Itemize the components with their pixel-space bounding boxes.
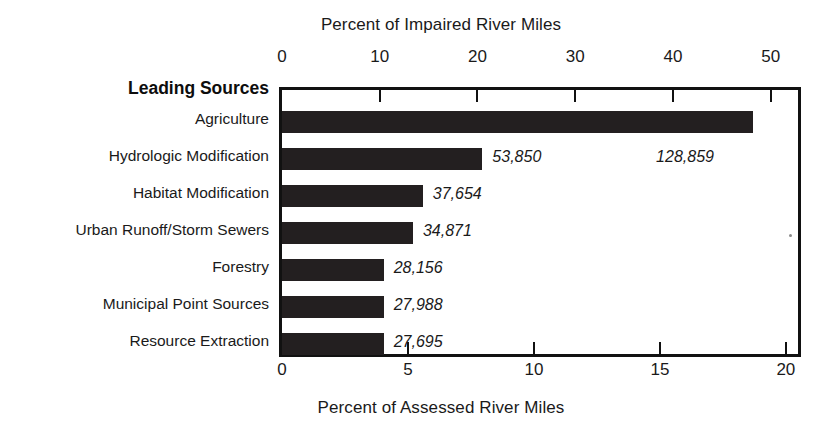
bottom-axis-tick-10 bbox=[533, 342, 535, 354]
category-label-resource-extraction: Resource Extraction bbox=[0, 332, 279, 350]
top-tick-label-20: 20 bbox=[468, 47, 487, 67]
value-label-agriculture: 128,859 bbox=[656, 148, 714, 166]
bar-chart-figure: Percent of Impaired River Miles 01020304… bbox=[0, 0, 836, 438]
plot-area bbox=[279, 87, 801, 357]
top-tick-label-50: 50 bbox=[761, 47, 780, 67]
value-label-forestry: 28,156 bbox=[394, 259, 443, 277]
value-label-habitat-modification: 37,654 bbox=[433, 185, 482, 203]
top-tick-label-30: 30 bbox=[566, 47, 585, 67]
category-label-urban-runoff-storm-sewers: Urban Runoff/Storm Sewers bbox=[0, 221, 279, 239]
category-label-agriculture: Agriculture bbox=[0, 110, 279, 128]
bar-forestry bbox=[282, 259, 384, 281]
value-label-municipal-point-sources: 27,988 bbox=[394, 296, 443, 314]
value-label-urban-runoff-storm-sewers: 34,871 bbox=[423, 222, 472, 240]
bar-agriculture bbox=[282, 111, 753, 133]
top-axis-tick-20 bbox=[476, 90, 478, 102]
bottom-axis-tick-15 bbox=[659, 342, 661, 354]
value-label-resource-extraction: 27,695 bbox=[394, 333, 443, 351]
category-label-municipal-point-sources: Municipal Point Sources bbox=[0, 295, 279, 313]
category-label-forestry: Forestry bbox=[0, 258, 279, 276]
top-axis-tick-30 bbox=[574, 90, 576, 102]
category-axis-labels: Leading Sources AgricultureHydrologic Mo… bbox=[0, 0, 279, 438]
bottom-tick-label-15: 15 bbox=[650, 360, 669, 380]
category-axis-title: Leading Sources bbox=[0, 78, 279, 99]
top-axis-tick-10 bbox=[379, 90, 381, 102]
bottom-axis-tick-20 bbox=[785, 342, 787, 354]
bottom-tick-label-10: 10 bbox=[524, 360, 543, 380]
category-label-hydrologic-modification: Hydrologic Modification bbox=[0, 147, 279, 165]
bottom-tick-label-5: 5 bbox=[403, 360, 412, 380]
top-axis-tick-50 bbox=[770, 90, 772, 102]
top-tick-label-40: 40 bbox=[663, 47, 682, 67]
bar-urban-runoff-storm-sewers bbox=[282, 222, 413, 244]
bar-hydrologic-modification bbox=[282, 148, 482, 170]
bottom-tick-label-0: 0 bbox=[277, 360, 286, 380]
bottom-tick-label-20: 20 bbox=[776, 360, 795, 380]
bar-municipal-point-sources bbox=[282, 296, 384, 318]
scan-artifact-speck bbox=[789, 234, 792, 237]
bar-resource-extraction bbox=[282, 333, 384, 355]
bottom-axis-title: Percent of Assessed River Miles bbox=[0, 398, 836, 418]
value-label-hydrologic-modification: 53,850 bbox=[492, 148, 541, 166]
bar-habitat-modification bbox=[282, 185, 423, 207]
category-label-habitat-modification: Habitat Modification bbox=[0, 184, 279, 202]
top-tick-label-10: 10 bbox=[370, 47, 389, 67]
top-axis-tick-40 bbox=[672, 90, 674, 102]
